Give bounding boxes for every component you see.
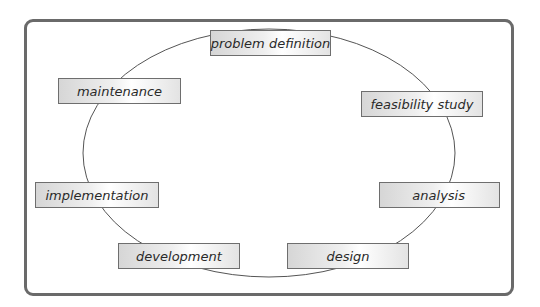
stage-label: problem definition xyxy=(211,36,331,51)
stage-problem-definition: problem definition xyxy=(210,30,331,56)
stage-label: implementation xyxy=(45,188,148,203)
stage-implementation: implementation xyxy=(35,182,159,208)
stage-label: design xyxy=(326,249,369,264)
stage-label: analysis xyxy=(412,188,465,203)
stage-feasibility-study: feasibility study xyxy=(361,91,483,117)
stage-design: design xyxy=(287,243,409,269)
stage-analysis: analysis xyxy=(379,182,500,208)
stage-development: development xyxy=(118,243,240,269)
stage-label: feasibility study xyxy=(371,97,474,112)
stage-label: maintenance xyxy=(77,84,162,99)
stage-maintenance: maintenance xyxy=(58,78,181,104)
stage-label: development xyxy=(136,249,222,264)
